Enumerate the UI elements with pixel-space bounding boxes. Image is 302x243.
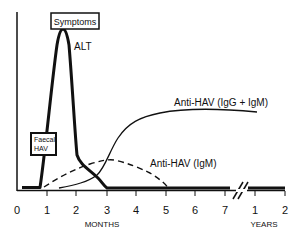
faecal-hav-annotation: Faecal HAV [31,133,56,155]
x-axis-label-years: YEARS [250,220,277,229]
series-anti-hav-igg-igm [59,109,257,188]
faecal-label-line2: HAV [34,145,48,152]
x-tick-labels: 0 1 2 3 4 5 6 7 1 2 [14,204,288,216]
tick-year-2: 2 [282,204,288,216]
anti-hav-igm-label: Anti-HAV (IgM) [150,158,217,169]
tick-6: 6 [192,204,198,216]
hepatitis-a-timeline-chart: 0 1 2 3 4 5 6 7 1 2 MONTHS YEARS Symptom… [0,0,302,243]
tick-2: 2 [73,204,79,216]
faecal-label-line1: Faecal [34,136,55,143]
alt-label: ALT [74,41,92,52]
x-axis-label-months: MONTHS [85,220,120,229]
tick-4: 4 [133,204,139,216]
tick-5: 5 [163,204,169,216]
x-ticks [47,191,285,196]
tick-3: 3 [104,204,110,216]
tick-0: 0 [14,204,20,216]
tick-1: 1 [44,204,50,216]
tick-year-1: 1 [252,204,258,216]
anti-hav-igg-igm-label: Anti-HAV (IgG + IgM) [174,97,268,108]
symptoms-annotation: Symptoms [51,13,99,29]
symptoms-label: Symptoms [54,17,97,27]
tick-7: 7 [222,204,228,216]
